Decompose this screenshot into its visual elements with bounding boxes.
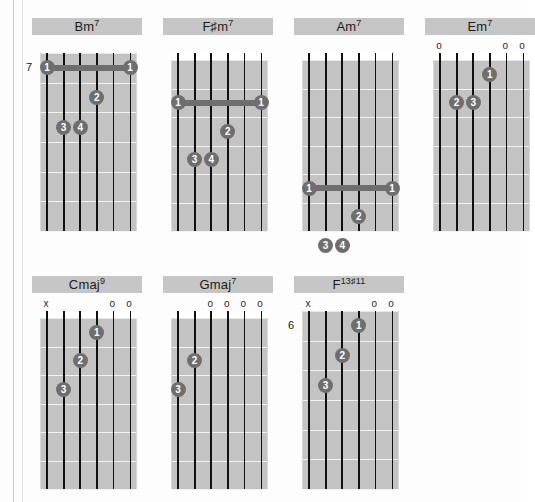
chord-name-label: Gmaj7 [163,276,273,293]
chord-row-2: Cmaj9xoo123Gmaj7oooo23F13♯11xoo1236 [0,258,521,502]
chord-diagram[interactable]: Gmaj7oooo23 [163,258,273,502]
muted-string-marker: x [303,298,313,309]
fret-line [303,146,398,147]
finger-dot: 1 [351,318,366,333]
barre-finger-dot: 1 [302,181,317,196]
fret-line [172,117,267,118]
fret-line [303,459,398,460]
string-line [308,53,310,231]
string-line [375,311,376,489]
fretboard-grid: 11234 [40,53,137,231]
fret-line [303,400,398,401]
open-string-marker: o [517,40,527,51]
fret-line [172,489,267,490]
chord-diagram[interactable]: Am711234 [294,0,404,250]
string-line [392,53,393,231]
nut-bar [302,53,399,60]
barre-finger-dot: 1 [171,95,186,110]
fret-line [172,146,267,147]
chord-name-label: F13♯11 [294,276,404,293]
string-line [130,53,131,231]
string-line [325,311,327,489]
fret-line [41,318,136,319]
fret-line [303,311,398,312]
fret-line [172,404,267,405]
string-line [210,311,212,489]
finger-dot: 3 [56,120,71,135]
fret-line [172,347,267,348]
string-line [439,53,441,231]
fret-line [41,375,136,376]
finger-dot: 2 [449,95,464,110]
string-line [227,53,229,231]
chord-diagram[interactable]: Cmaj9xoo123 [32,258,142,502]
finger-dot: 2 [351,209,366,224]
fretboard-grid: 11234 [171,53,268,231]
fret-line [41,347,136,348]
string-line [227,311,229,489]
fret-line [41,404,136,405]
finger-dot: 3 [56,382,71,397]
open-string-marker: o [238,298,248,309]
string-markers: ooo [425,40,535,52]
chord-diagram[interactable]: Em7ooo123 [425,0,535,250]
open-string-marker: o [205,298,215,309]
string-line [194,311,196,489]
barre-bar [309,185,392,191]
fret-line [172,318,267,319]
finger-dot: 3 [187,152,202,167]
string-line [244,53,245,231]
barre-finger-dot: 1 [385,181,400,196]
fret-line [434,203,529,204]
fretboard-grid: 123 [302,311,399,489]
fret-position-number: 6 [280,319,294,331]
string-line [506,53,507,231]
finger-dot: 2 [220,124,235,139]
string-line [341,53,343,231]
string-line [523,53,524,231]
string-line [46,53,48,231]
finger-dot: 1 [482,67,497,82]
muted-string-marker: x [41,298,51,309]
fret-line [41,201,136,202]
fret-line [172,60,267,61]
finger-dot: 3 [318,378,333,393]
string-line [79,311,81,489]
open-string-marker: o [434,40,444,51]
string-line [96,53,98,231]
finger-dot: 2 [187,353,202,368]
fretboard-grid: 11234 [302,53,399,231]
fret-line [303,89,398,90]
chord-diagram[interactable]: F13♯11xoo1236 [294,258,404,502]
fretboard-grid: 123 [40,311,137,489]
fret-line [41,53,136,54]
string-line [261,311,262,489]
fret-line [434,89,529,90]
nut-bar [40,311,137,318]
string-line [261,53,262,231]
string-markers [163,40,273,52]
open-string-marker: o [500,40,510,51]
fret-line [41,142,136,143]
string-markers: xoo [294,298,404,310]
open-string-marker: o [107,298,117,309]
chord-name-label: Bm7 [32,18,142,35]
fret-line [172,432,267,433]
fret-line [172,203,267,204]
fret-line [434,60,529,61]
finger-dot: 4 [73,120,88,135]
string-line [325,53,327,231]
fret-position-number: 7 [18,61,32,73]
chord-name-label: F♯m7 [163,18,273,35]
finger-dot: 1 [89,325,104,340]
finger-dot: 3 [318,238,333,253]
fret-line [434,146,529,147]
chord-diagram[interactable]: F♯m711234 [163,0,273,250]
string-line [130,311,131,489]
chord-diagram[interactable]: Bm7112347 [32,0,142,250]
string-line [358,311,360,489]
string-line [79,53,81,231]
string-line [244,311,245,489]
open-string-marker: o [124,298,134,309]
